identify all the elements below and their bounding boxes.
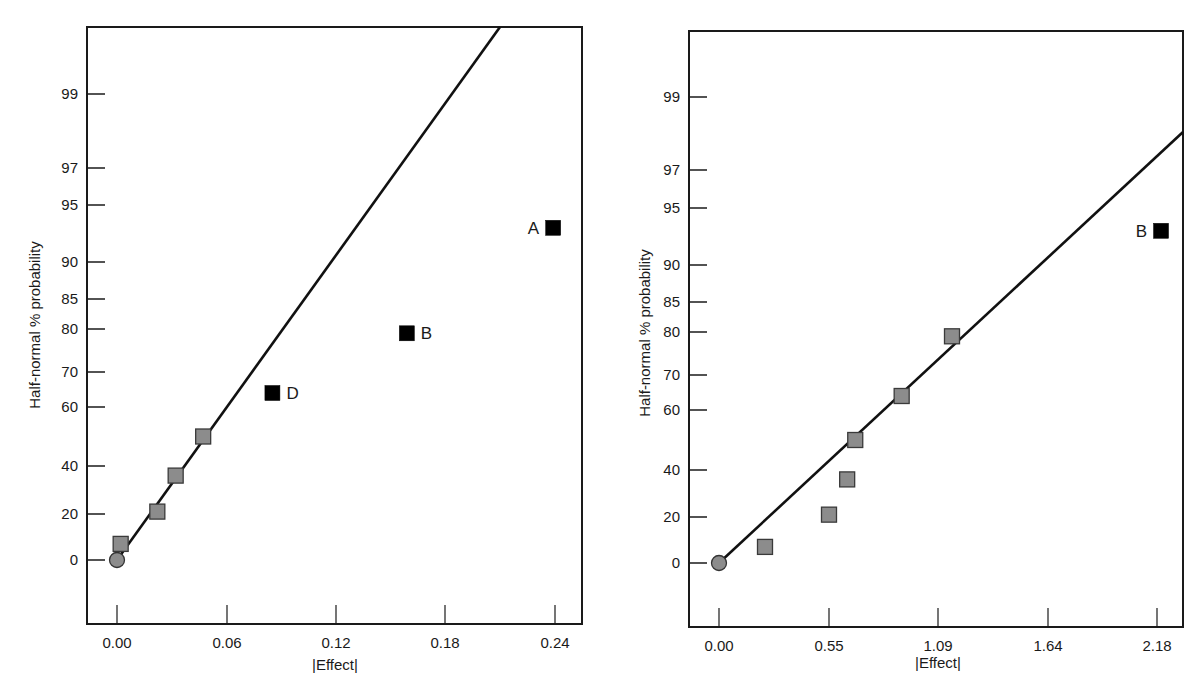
y-tick-label: 80 — [663, 323, 680, 340]
x-tick-label: 0.00 — [704, 637, 733, 654]
effect-label: B — [421, 324, 432, 343]
y-axis-title: Half-normal % probability — [636, 249, 653, 417]
effect-marker — [758, 539, 773, 554]
x-axis-title: |Effect| — [312, 656, 358, 673]
y-tick-label: 0 — [672, 554, 680, 571]
y-tick-label: 60 — [663, 401, 680, 418]
right-half-normal-plot: 0204060708085909597990.000.551.091.642.1… — [636, 31, 1183, 671]
x-tick-label: 2.18 — [1142, 637, 1171, 654]
y-tick-label: 95 — [61, 196, 78, 213]
x-tick-label: 0.24 — [540, 634, 569, 651]
effect-marker — [196, 429, 211, 444]
effect-marker — [840, 472, 855, 487]
y-tick-label: 90 — [663, 256, 680, 273]
y-tick-label: 60 — [61, 398, 78, 415]
fit-line — [719, 132, 1183, 563]
plot-frame — [689, 31, 1183, 627]
y-tick-label: 20 — [663, 508, 680, 525]
effect-label: D — [286, 384, 298, 403]
effect-marker — [822, 507, 837, 522]
y-tick-label: 70 — [61, 363, 78, 380]
clipped-caption — [640, 688, 1180, 694]
y-tick-label: 40 — [663, 461, 680, 478]
effect-label: A — [528, 219, 540, 238]
origin-point-marker — [712, 556, 727, 571]
plot-frame — [87, 27, 582, 624]
x-tick-label: 1.09 — [923, 637, 952, 654]
significant-effect-marker — [399, 326, 414, 341]
left-half-normal-plot: 0204060708085909597990.000.060.120.180.2… — [26, 27, 582, 673]
significant-effect-marker — [1154, 223, 1169, 238]
y-axis-title: Half-normal % probability — [26, 241, 43, 409]
y-tick-label: 99 — [61, 85, 78, 102]
x-tick-label: 0.55 — [814, 637, 843, 654]
y-tick-label: 85 — [61, 290, 78, 307]
x-tick-label: 0.06 — [212, 634, 241, 651]
y-tick-label: 80 — [61, 320, 78, 337]
effect-marker — [945, 329, 960, 344]
x-tick-label: 0.00 — [102, 634, 131, 651]
effect-marker — [894, 389, 909, 404]
effect-label: B — [1136, 222, 1147, 241]
x-tick-label: 0.18 — [430, 634, 459, 651]
x-axis-title: |Effect| — [915, 654, 961, 671]
effect-marker — [848, 433, 863, 448]
y-tick-label: 85 — [663, 293, 680, 310]
y-tick-label: 40 — [61, 457, 78, 474]
half-normal-plots: 0204060708085909597990.000.060.120.180.2… — [0, 0, 1198, 694]
y-tick-label: 90 — [61, 253, 78, 270]
y-tick-label: 97 — [61, 159, 78, 176]
effect-marker — [113, 536, 128, 551]
y-tick-label: 95 — [663, 199, 680, 216]
y-tick-label: 20 — [61, 505, 78, 522]
y-tick-label: 97 — [663, 161, 680, 178]
y-tick-label: 0 — [70, 551, 78, 568]
significant-effect-marker — [265, 386, 280, 401]
significant-effect-marker — [546, 220, 561, 235]
effect-marker — [168, 468, 183, 483]
effect-marker — [150, 504, 165, 519]
y-tick-label: 70 — [663, 366, 680, 383]
x-tick-label: 0.12 — [321, 634, 350, 651]
y-tick-label: 99 — [663, 88, 680, 105]
x-tick-label: 1.64 — [1033, 637, 1062, 654]
origin-point-marker — [110, 553, 125, 568]
